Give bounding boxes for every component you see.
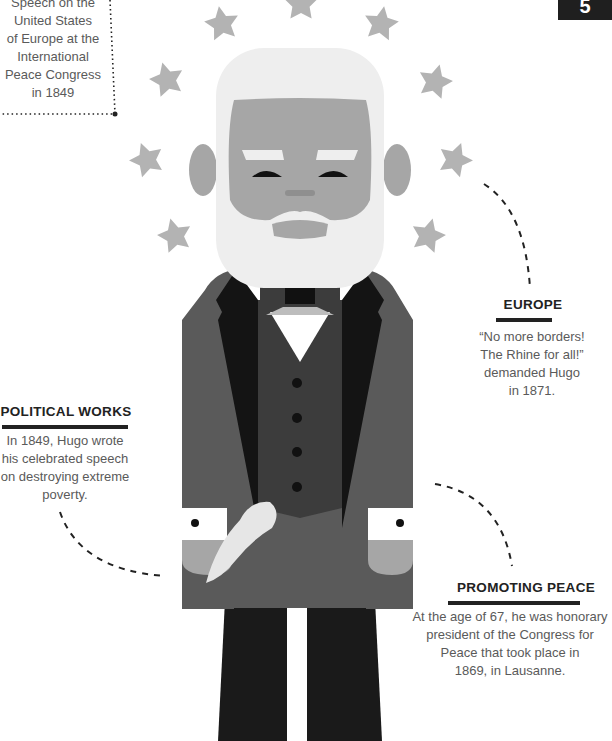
promoting-peace-caption: At the age of 67, he was honorary presid… xyxy=(408,608,612,680)
jacket xyxy=(182,265,413,609)
caption-line: poverty. xyxy=(0,486,130,504)
note-line: Speech on the xyxy=(0,0,106,12)
caption-line: The Rhine for all!” xyxy=(452,346,612,364)
note-line: United States xyxy=(0,12,106,30)
caption-line: his celebrated speech xyxy=(0,450,130,468)
caption-line: president of the Congress for xyxy=(408,626,612,644)
caption-line: In 1849, Hugo wrote xyxy=(0,432,130,450)
head xyxy=(189,48,411,288)
top-left-note: Speech on the United States of Europe at… xyxy=(0,0,106,102)
note-line: of Europe at the xyxy=(0,30,106,48)
promoting-peace-rule xyxy=(448,601,580,605)
caption-line: “No more borders! xyxy=(452,328,612,346)
caption-line: in 1871. xyxy=(452,382,612,400)
europe-heading: EUROPE xyxy=(490,297,576,312)
caption-line: Peace that took place in xyxy=(408,644,612,662)
page-number-badge: 5 xyxy=(558,0,612,20)
promoting-peace-heading: PROMOTING PEACE xyxy=(440,580,612,595)
note-line: in 1849 xyxy=(0,84,106,102)
europe-caption: “No more borders! The Rhine for all!” de… xyxy=(452,328,612,400)
caption-line: 1869, in Lausanne. xyxy=(408,662,612,680)
political-works-heading: POLITICAL WORKS xyxy=(0,404,132,419)
europe-rule xyxy=(496,318,552,322)
note-line: Peace Congress xyxy=(0,66,106,84)
political-works-caption: In 1849, Hugo wrote his celebrated speec… xyxy=(0,432,130,504)
caption-line: demanded Hugo xyxy=(452,364,612,382)
note-line: International xyxy=(0,48,106,66)
caption-line: At the age of 67, he was honorary xyxy=(408,608,612,626)
caption-line: on destroying extreme xyxy=(0,468,130,486)
political-works-rule xyxy=(2,425,128,429)
